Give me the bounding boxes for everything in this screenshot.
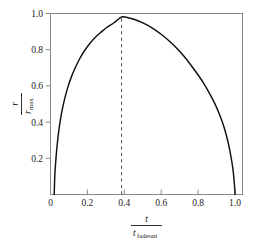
x-tick-label-0-6: 0.6 (155, 198, 167, 208)
x-tick-marks (51, 190, 236, 195)
y-tick-marks (46, 14, 51, 159)
y-tick-label-0-4: 0.4 (31, 118, 43, 128)
y-tick-label-0-6: 0.6 (31, 81, 43, 91)
x-tick-label-1-0: 1.0 (229, 198, 241, 208)
data-curve (54, 17, 235, 195)
x-axis-label-denominator: t (133, 228, 136, 238)
plot-frame (51, 14, 243, 195)
x-tick-label-0-4: 0.4 (118, 198, 130, 208)
y-tick-label-0-2: 0.2 (31, 154, 43, 164)
x-axis-label-numerator: t (145, 214, 148, 224)
x-tick-label-0-2: 0.2 (81, 198, 93, 208)
y-axis-label: r r max (10, 93, 34, 115)
y-axis-label-denominator-subscript: max (27, 98, 34, 110)
y-tick-label-1-0: 1.0 (31, 9, 43, 19)
y-axis-label-numerator: r (10, 102, 20, 106)
chart-svg: 1.0 0.8 0.6 0.4 0.2 0 0.2 0.4 0.6 0.8 1.… (0, 0, 254, 244)
x-axis-label-denominator-subscript: fadeout (137, 232, 157, 239)
y-tick-label-0-8: 0.8 (31, 45, 43, 55)
chart-figure: 1.0 0.8 0.6 0.4 0.2 0 0.2 0.4 0.6 0.8 1.… (0, 0, 254, 244)
x-axis-label: t t fadeout (131, 214, 162, 239)
x-tick-label-0: 0 (48, 198, 53, 208)
x-tick-label-0-8: 0.8 (192, 198, 204, 208)
